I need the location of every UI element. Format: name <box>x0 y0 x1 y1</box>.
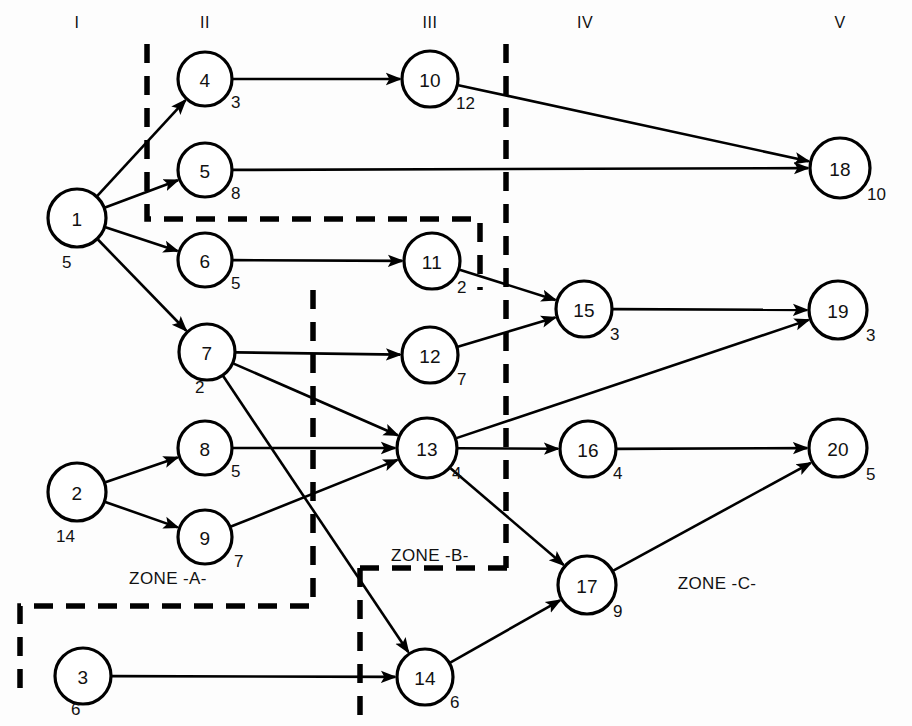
node-15[interactable]: 153 <box>556 281 619 344</box>
node-label-7: 7 <box>202 343 213 364</box>
edge-10-to-18 <box>458 85 808 161</box>
node-label-3: 3 <box>78 667 89 688</box>
node-2[interactable]: 214 <box>48 463 106 546</box>
node-weight-11: 2 <box>457 278 466 297</box>
node-1[interactable]: 15 <box>48 189 106 272</box>
node-weight-8: 5 <box>231 462 240 481</box>
column-header-IV: IV <box>577 14 593 31</box>
network-diagram-canvas: 1521436435865728597101211212713414615316… <box>0 0 912 726</box>
node-17[interactable]: 179 <box>558 556 622 621</box>
edge-7-to-12 <box>236 352 400 354</box>
node-weight-20: 5 <box>866 465 875 484</box>
node-weight-13: 4 <box>452 464 461 483</box>
zone-label-zone-c-: ZONE -C- <box>678 574 757 593</box>
node-weight-18: 10 <box>867 185 886 204</box>
node-9[interactable]: 97 <box>178 510 243 571</box>
node-16[interactable]: 164 <box>560 421 622 483</box>
edge-2-to-9 <box>105 502 177 527</box>
node-weight-16: 4 <box>613 464 622 483</box>
network-diagram: 1521436435865728597101211212713414615316… <box>0 0 912 726</box>
edge-1-to-5 <box>105 180 178 207</box>
edge-3-to-14 <box>112 676 395 677</box>
node-label-14: 14 <box>414 668 436 689</box>
edge-7-to-14 <box>223 376 408 652</box>
node-label-18: 18 <box>829 159 851 180</box>
node-weight-14: 6 <box>450 693 459 712</box>
node-label-15: 15 <box>573 300 595 321</box>
zone-label-zone-b-: ZONE -B- <box>391 546 469 565</box>
node-12[interactable]: 127 <box>402 327 466 389</box>
node-label-20: 20 <box>827 439 849 460</box>
node-8[interactable]: 85 <box>178 421 240 481</box>
node-weight-2: 14 <box>56 527 75 546</box>
node-20[interactable]: 205 <box>809 419 875 484</box>
node-6[interactable]: 65 <box>178 233 240 293</box>
column-headers: IIIIIIIVV <box>75 14 846 31</box>
node-weight-10: 12 <box>456 94 475 113</box>
zone-label-zone-a-: ZONE -A- <box>129 569 207 588</box>
node-weight-15: 3 <box>610 325 619 344</box>
node-label-6: 6 <box>200 251 211 272</box>
edge-1-to-6 <box>106 227 178 251</box>
node-label-13: 13 <box>416 439 438 460</box>
node-18[interactable]: 1810 <box>810 138 886 204</box>
column-header-III: III <box>423 14 438 31</box>
node-7[interactable]: 72 <box>179 324 235 397</box>
node-label-10: 10 <box>419 70 441 91</box>
edge-13-to-19 <box>456 320 808 438</box>
node-11[interactable]: 112 <box>404 233 466 297</box>
edge-1-to-7 <box>98 240 186 331</box>
edge-16-to-20 <box>617 448 807 449</box>
node-label-16: 16 <box>577 440 599 461</box>
edge-14-to-17 <box>450 600 560 662</box>
node-4[interactable]: 43 <box>178 52 240 112</box>
node-label-8: 8 <box>200 439 211 460</box>
edge-13-to-16 <box>458 448 558 449</box>
edge-2-to-8 <box>105 457 177 482</box>
node-19[interactable]: 193 <box>809 281 875 345</box>
column-header-II: II <box>200 14 210 31</box>
node-label-1: 1 <box>72 209 83 230</box>
column-header-V: V <box>834 14 845 31</box>
node-weight-9: 7 <box>234 552 243 571</box>
node-10[interactable]: 1012 <box>402 51 475 113</box>
node-weight-1: 5 <box>62 253 71 272</box>
edge-15-to-19 <box>613 309 807 310</box>
node-label-12: 12 <box>419 346 441 367</box>
node-weight-5: 8 <box>231 184 240 203</box>
node-label-9: 9 <box>200 528 211 549</box>
node-label-2: 2 <box>72 483 83 504</box>
node-14[interactable]: 146 <box>397 649 459 712</box>
node-weight-12: 7 <box>457 370 466 389</box>
zone-boundary-lines <box>20 44 512 726</box>
node-weight-3: 6 <box>71 700 80 719</box>
node-label-4: 4 <box>200 70 211 91</box>
node-5[interactable]: 58 <box>178 143 240 203</box>
edge-17-to-20 <box>613 463 810 571</box>
node-weight-4: 3 <box>231 93 240 112</box>
node-label-17: 17 <box>576 576 598 597</box>
node-weight-6: 5 <box>231 274 240 293</box>
node-3[interactable]: 36 <box>55 648 111 719</box>
node-weight-17: 9 <box>613 602 622 621</box>
node-label-11: 11 <box>422 252 442 273</box>
node-weight-7: 2 <box>195 378 204 397</box>
node-weight-19: 3 <box>866 326 875 345</box>
node-13[interactable]: 134 <box>397 418 461 483</box>
column-header-I: I <box>75 14 80 31</box>
node-label-19: 19 <box>827 301 849 322</box>
edge-5-to-18 <box>233 168 808 170</box>
edge-6-to-11 <box>233 260 402 261</box>
node-label-5: 5 <box>200 161 211 182</box>
